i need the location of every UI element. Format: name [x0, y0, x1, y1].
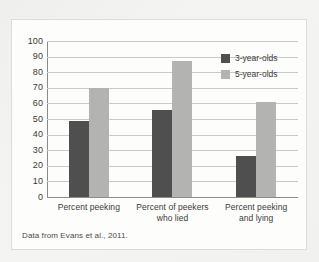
y-axis-tick-label: 80: [3, 68, 43, 77]
bar: [69, 121, 89, 197]
legend-label: 3-year-olds: [235, 54, 278, 63]
bar: [256, 102, 276, 197]
legend-item: 3-year-olds: [221, 52, 295, 65]
x-axis-baseline: [47, 197, 298, 198]
figure-root: 1009080706050403020100 Percent peekingPe…: [0, 0, 319, 262]
y-axis-tick-label: 60: [3, 99, 43, 108]
x-axis-category-label: Percent of peekerswho lied: [131, 202, 215, 223]
y-axis-tick-label: 20: [3, 161, 43, 170]
y-axis-tick-label: 10: [3, 177, 43, 186]
legend-item: 5-year-olds: [221, 68, 295, 81]
y-axis-tick-labels: 1009080706050403020100: [0, 0, 43, 262]
x-axis-category-label-line: and lying: [214, 213, 298, 224]
legend-label: 5-year-olds: [235, 70, 278, 79]
bar-group: [47, 41, 131, 197]
y-axis-tick-label: 40: [3, 130, 43, 139]
legend-swatch: [221, 54, 230, 63]
x-axis-category-label: Percent peekingand lying: [214, 202, 298, 223]
x-axis-category-label-line: Percent peeking: [214, 202, 298, 213]
y-axis-tick-label: 70: [3, 83, 43, 92]
x-axis-category-label: Percent peeking: [47, 202, 131, 213]
bar: [172, 61, 192, 197]
y-axis-tick-label: 50: [3, 115, 43, 124]
chart-legend: 3-year-olds5-year-olds: [221, 52, 295, 84]
x-axis-category-label-line: who lied: [131, 213, 215, 224]
y-axis-tick-label: 90: [3, 52, 43, 61]
x-axis-category-label-line: Percent peeking: [47, 202, 131, 213]
y-axis-tick-label: 0: [3, 193, 43, 202]
source-note: Data from Evans et al., 2011.: [22, 231, 128, 240]
y-axis-tick-label: 100: [3, 37, 43, 46]
bar: [89, 88, 109, 197]
bar-group: [131, 41, 215, 197]
y-axis-tick-label: 30: [3, 146, 43, 155]
bar: [236, 156, 256, 197]
bar: [152, 110, 172, 197]
x-axis-category-label-line: Percent of peekers: [131, 202, 215, 213]
legend-swatch: [221, 70, 230, 79]
